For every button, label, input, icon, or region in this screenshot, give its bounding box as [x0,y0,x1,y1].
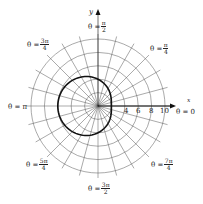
angle-label-pi: θ = π [8,103,27,111]
angle-prefix: θ = [88,185,100,193]
grid-spoke [98,106,134,168]
grid-spoke [98,106,117,176]
frac-den: 2 [102,27,106,33]
grid-spoke [98,44,134,106]
angle-label-7pi-4: θ = 7π4 [151,158,173,171]
frac-den: 4 [164,49,168,55]
angle-prefix: θ = [151,161,163,169]
frac-den: 2 [104,189,108,195]
angle-prefix: θ = [150,45,162,53]
radial-tick-8: 8 [149,107,153,115]
frac-den: 4 [42,165,46,171]
x-axis-label: x [187,96,190,103]
frac-den: 4 [43,45,47,51]
grid-spoke [62,106,98,168]
angle-prefix: θ = [27,41,39,49]
angle-label-5pi-4: θ = 5π4 [26,158,48,171]
angle-prefix: θ = [26,161,38,169]
radial-tick-10: 10 [160,107,169,115]
grid-spoke [36,70,98,106]
angle-label-0: θ = 0 [176,108,195,116]
y-arrowhead-icon [96,9,101,15]
angle-label-pi-2: θ = π2 [88,20,106,33]
grid-spoke [62,44,98,106]
angle-prefix: θ = [88,23,100,31]
radial-tick-6: 6 [136,107,140,115]
grid-spoke [79,36,98,106]
angle-label-pi-4: θ = π4 [150,42,168,55]
grid-spoke [36,106,98,142]
angle-label-3pi-4: θ = 3π4 [27,38,49,51]
y-axis-label: y [89,8,93,16]
grid-spoke [98,36,117,106]
frac-den: 4 [167,165,171,171]
radial-tick-4: 4 [124,107,128,115]
angle-label-3pi-2: θ = 3π2 [88,182,110,195]
grid-spoke [79,106,98,176]
